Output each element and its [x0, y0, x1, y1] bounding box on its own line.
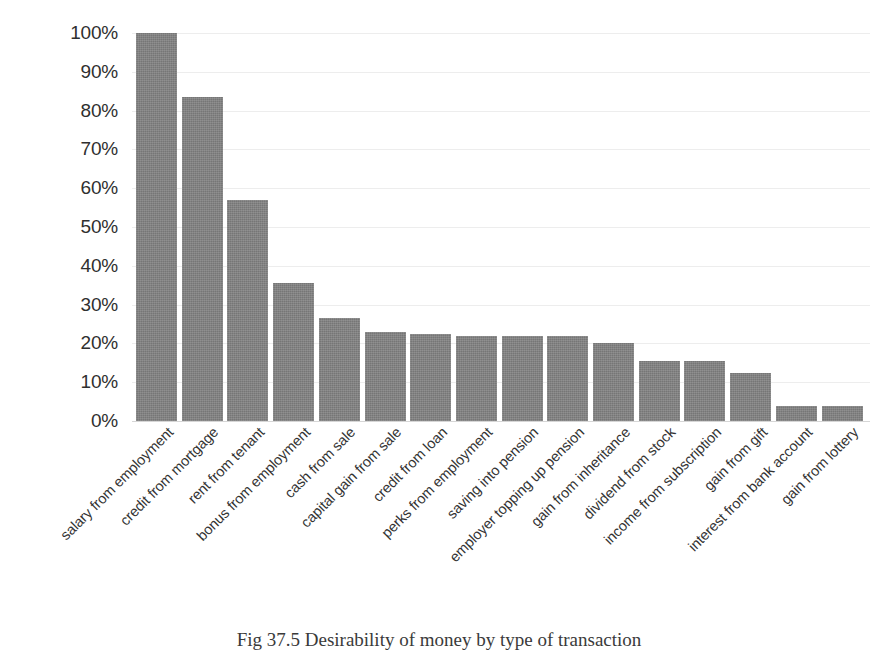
bar [136, 33, 177, 421]
bar [456, 336, 497, 421]
y-tick-label: 90% [81, 61, 118, 83]
y-tick-label: 20% [81, 332, 118, 354]
y-tick-label: 10% [81, 371, 118, 393]
y-tick-label: 50% [81, 216, 118, 238]
bar [410, 334, 451, 421]
bar [547, 336, 588, 421]
y-tick-label: 0% [91, 410, 118, 432]
bar [319, 318, 360, 421]
bar [227, 200, 268, 421]
bar [822, 406, 863, 421]
bar [776, 406, 817, 421]
bar-series [132, 33, 870, 421]
y-tick-label: 100% [70, 22, 118, 44]
gridline-0 [132, 421, 870, 422]
y-tick-label: 30% [81, 294, 118, 316]
bar [502, 336, 543, 421]
bar [182, 97, 223, 421]
y-tick-label: 60% [81, 177, 118, 199]
bar [730, 373, 771, 422]
y-axis: 0%10%20%30%40%50%60%70%80%90%100% [0, 33, 126, 421]
bar [273, 283, 314, 421]
y-tick-label: 40% [81, 255, 118, 277]
figure: 0%10%20%30%40%50%60%70%80%90%100% salary… [0, 0, 878, 655]
y-tick-label: 70% [81, 138, 118, 160]
bar [365, 332, 406, 421]
figure-caption: Fig 37.5 Desirability of money by type o… [0, 629, 878, 651]
bar [684, 361, 725, 421]
bar [593, 343, 634, 421]
x-axis: salary from employmentcredit from mortga… [132, 424, 878, 624]
y-tick-label: 80% [81, 100, 118, 122]
bar [639, 361, 680, 421]
